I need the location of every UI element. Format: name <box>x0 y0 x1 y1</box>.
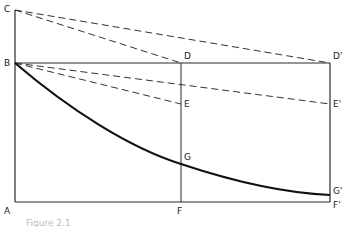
label-C: C <box>4 5 10 14</box>
label-B: B <box>4 59 10 68</box>
dashed-B-E-prime <box>15 63 330 104</box>
geometry-diagram <box>0 0 352 227</box>
curve-B-G-G-prime <box>15 63 330 195</box>
label-A: A <box>4 207 10 216</box>
label-D-prime: D' <box>333 52 342 61</box>
label-E-prime: E' <box>333 100 341 109</box>
label-F: F <box>177 207 182 216</box>
dashed-C-D-prime <box>15 10 330 63</box>
label-E: E <box>184 100 190 109</box>
dashed-C-D <box>15 10 181 63</box>
label-G-prime: G' <box>333 187 342 196</box>
label-F-prime: F' <box>333 201 341 210</box>
label-D: D <box>184 52 191 61</box>
figure-caption: Figure 2.1 <box>26 218 71 227</box>
label-G: G <box>184 153 191 162</box>
